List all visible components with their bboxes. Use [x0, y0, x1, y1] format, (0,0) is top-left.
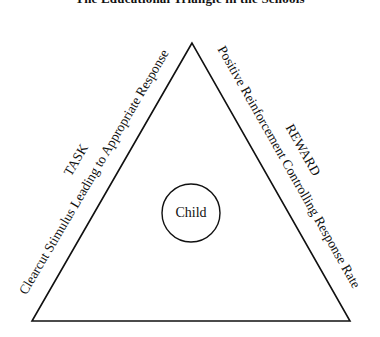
triangle-diagram — [0, 0, 380, 337]
child-label: Child — [175, 205, 206, 221]
